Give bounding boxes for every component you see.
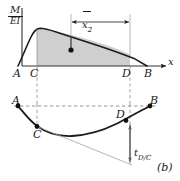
tangent-line-at-c (37, 127, 132, 166)
point-label-b-top: B (144, 68, 152, 79)
point-label-d-bottom: D (116, 109, 125, 120)
point-label-b-bottom: B (150, 95, 158, 106)
x-axis-label: x (168, 57, 174, 67)
dimension-label-xbar2: x2 (82, 11, 92, 34)
figure-part-label: (b) (157, 162, 173, 173)
mei-denominator: EI (5, 17, 25, 26)
tdc-subscript: D/C (138, 154, 151, 162)
mei-numerator: M (5, 5, 25, 16)
point-label-a-bottom: A (12, 95, 20, 106)
point-label-d-top: D (122, 68, 131, 79)
centroid-dot (68, 47, 73, 52)
point-label-c-bottom: C (33, 129, 41, 140)
point-label-a-top: A (13, 68, 21, 79)
tangential-deviation-label: tD/C (134, 141, 151, 162)
dimension-subscript: 2 (88, 26, 92, 34)
overbar (83, 11, 91, 12)
y-axis-label-mei: M EI (5, 5, 25, 26)
moment-area-figure: M EI x x2 A C D B A C D B tD/C (b) (0, 0, 180, 181)
point-label-c-top: C (30, 68, 38, 79)
